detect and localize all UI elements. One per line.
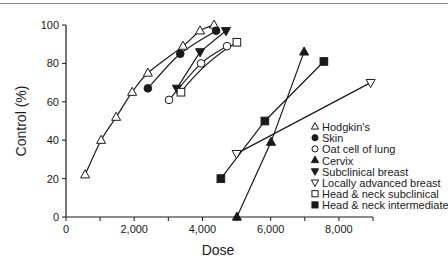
open-circle-marker-icon <box>312 146 318 152</box>
open-triangle-up-marker-icon <box>97 135 106 143</box>
open-circle-marker-icon <box>197 60 205 68</box>
x-tick-label: 6,000 <box>257 223 285 235</box>
open-circle-marker-icon <box>223 42 231 50</box>
open-triangle-down-marker-icon <box>311 180 318 186</box>
open-triangle-up-marker-icon <box>81 170 90 178</box>
legend-item-label: Head & neck intermediate <box>322 199 448 211</box>
filled-triangle-down-marker-icon <box>311 169 318 175</box>
open-square-marker-icon <box>233 38 241 46</box>
legend-item-label: Cervix <box>322 155 354 167</box>
x-tick-label: 2,000 <box>120 223 148 235</box>
filled-triangle-up-marker-icon <box>311 156 318 162</box>
series-line <box>221 61 324 178</box>
legend-item-label: Subclinical breast <box>322 166 408 178</box>
open-square-marker-icon <box>177 88 185 96</box>
filled-triangle-up-marker-icon <box>232 212 241 220</box>
y-tick-label: 100 <box>41 19 59 31</box>
x-tick-label: 0 <box>63 223 69 235</box>
y-tick-label: 20 <box>47 173 59 185</box>
filled-circle-marker-icon <box>176 50 184 58</box>
filled-triangle-down-marker-icon <box>196 49 205 57</box>
y-tick-label: 40 <box>47 134 59 146</box>
y-tick-label: 60 <box>47 96 59 108</box>
filled-triangle-down-marker-icon <box>221 28 230 36</box>
filled-square-marker-icon <box>320 58 328 66</box>
open-triangle-up-marker-icon <box>196 26 205 34</box>
series-line <box>85 25 214 175</box>
open-triangle-up-marker-icon <box>112 112 121 120</box>
open-circle-marker-icon <box>165 96 173 104</box>
legend-item-label: Oat cell of lung <box>322 143 395 155</box>
x-axis-title: Dose <box>202 242 235 258</box>
open-triangle-up-marker-icon <box>143 68 152 76</box>
legend: Hodgkin'sSkinOat cell of lungCervixSubcl… <box>311 121 448 211</box>
filled-triangle-up-marker-icon <box>267 137 276 145</box>
filled-circle-marker-icon <box>144 85 152 93</box>
open-triangle-up-marker-icon <box>311 123 318 129</box>
legend-item-label: Hodgkin's <box>322 121 370 133</box>
filled-triangle-up-marker-icon <box>300 47 309 55</box>
filled-circle-marker-icon <box>212 27 220 35</box>
filled-circle-marker-icon <box>312 135 318 141</box>
open-triangle-up-marker-icon <box>179 41 188 49</box>
y-tick-label: 0 <box>53 211 59 223</box>
x-tick-label: 8,000 <box>325 223 353 235</box>
open-triangle-down-marker-icon <box>366 79 375 87</box>
legend-item-label: Locally advanced breast <box>322 177 441 189</box>
legend-item-label: Skin <box>322 132 343 144</box>
legend-item-label: Head & neck subclinical <box>322 188 439 200</box>
open-square-marker-icon <box>312 191 318 197</box>
filled-square-marker-icon <box>261 117 269 125</box>
y-axis-title: Control (%) <box>13 86 29 157</box>
x-tick-label: 4,000 <box>189 223 217 235</box>
filled-square-marker-icon <box>217 175 225 183</box>
filled-square-marker-icon <box>312 202 318 208</box>
series-line <box>237 52 304 217</box>
dose-control-chart: 02,0004,0006,0008,000020406080100 Hodgki… <box>0 0 448 267</box>
y-tick-label: 80 <box>47 57 59 69</box>
